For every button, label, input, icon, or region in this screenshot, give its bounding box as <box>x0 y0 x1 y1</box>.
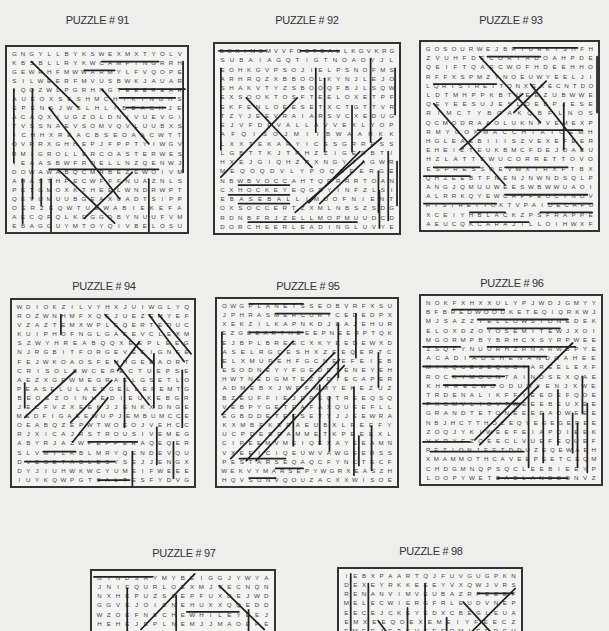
grid-cell: E <box>123 610 132 619</box>
grid-cell: U <box>141 112 150 121</box>
grid-cell: H <box>460 90 469 99</box>
grid-cell: J <box>24 429 33 438</box>
grid-cell: S <box>218 55 227 64</box>
grid-cell: S <box>286 466 294 475</box>
grid-cell: H <box>532 62 541 71</box>
grid-cell: E <box>368 608 377 617</box>
grid-cell: B <box>141 411 149 420</box>
grid-cell: H <box>37 130 46 139</box>
grid-cell: E <box>351 448 360 457</box>
grid-cell: J <box>33 357 42 366</box>
grid-cell: R <box>385 374 394 383</box>
grid-cell: T <box>321 429 330 438</box>
grid-cell: E <box>157 203 166 212</box>
grid-cell: M <box>441 118 450 127</box>
grid-cell: I <box>206 610 215 619</box>
grid-letters: GINDSAYMYBEIGGJYWYAJNIEQURLOEXMJVECNQNNX… <box>95 573 271 631</box>
grid-cell: E <box>339 356 348 365</box>
grid-cell: A <box>385 411 394 420</box>
grid-cell: Q <box>141 158 150 167</box>
grid-cell: N <box>537 473 546 482</box>
grid-cell: E <box>132 167 141 176</box>
grid-cell: I <box>158 167 167 176</box>
grid-cell: G <box>237 328 245 337</box>
grid-row: EPENSJWSLHLIBEACHJE <box>10 103 184 112</box>
grid-cell: L <box>255 301 264 310</box>
grid-cell: M <box>247 356 256 365</box>
grid-cell: I <box>197 573 206 582</box>
grid-cell: U <box>197 600 206 609</box>
grid-cell: A <box>167 76 176 85</box>
grid-cell: X <box>424 454 432 463</box>
grid-cell: A <box>123 194 132 203</box>
grid-cell: L <box>293 194 302 203</box>
grid-cell: S <box>469 164 478 173</box>
grid-cell: O <box>245 92 254 101</box>
grid-cell: W <box>80 366 89 375</box>
grid-cell: P <box>246 301 255 310</box>
grid-cell: D <box>342 580 351 589</box>
grid-cell: S <box>103 457 112 466</box>
grid-cell: G <box>50 375 59 384</box>
grid-cell: M <box>321 383 330 392</box>
grid-cell: D <box>499 307 507 316</box>
grid-cell: E <box>68 420 77 429</box>
grid-cell: W <box>368 411 377 420</box>
grid-cell: O <box>433 427 442 436</box>
grid-cell: E <box>220 328 228 337</box>
grid-cell: E <box>123 582 132 591</box>
grid-cell: B <box>441 307 449 316</box>
grid-cell: W <box>77 438 86 447</box>
grid-cell: E <box>589 399 598 408</box>
grid-cell: H <box>502 344 511 353</box>
grid-cell: R <box>404 571 413 580</box>
grid-cell: R <box>377 411 386 420</box>
grid-cell: L <box>316 74 325 83</box>
grid-cell: P <box>123 58 132 67</box>
grid-cell: F <box>546 108 555 117</box>
grid-cell: L <box>352 222 361 231</box>
grid-cell: J <box>578 72 587 81</box>
grid-cell: T <box>166 130 175 139</box>
grid-cell: E <box>351 589 360 598</box>
grid-cell: T <box>571 81 579 90</box>
grid-cell: G <box>474 608 483 617</box>
grid-cell: V <box>433 53 442 62</box>
grid-cell: W <box>577 90 586 99</box>
grid-cell: J <box>225 573 234 582</box>
grid-cell: E <box>425 617 434 626</box>
grid-cell: H <box>169 610 178 619</box>
grid-cell: Q <box>540 307 548 316</box>
grid-cell: G <box>357 46 365 55</box>
grid-cell: Z <box>541 90 550 99</box>
grid-cell: W <box>103 420 112 429</box>
grid-cell: L <box>289 222 298 231</box>
grid-cell: S <box>94 475 103 484</box>
grid-cell: F <box>71 158 80 167</box>
grid-cell: B <box>257 383 266 392</box>
grid-cell: E <box>465 200 473 209</box>
grid-cell: B <box>324 129 333 138</box>
grid-cell: R <box>56 130 65 139</box>
grid-cell: Y <box>485 335 494 344</box>
grid-cell: F <box>460 53 469 62</box>
grid-row: SILWEERFMVUSBWKJAUAR <box>10 76 184 85</box>
grid-cell: E <box>156 375 165 384</box>
grid-cell: V <box>527 136 536 145</box>
grid-cell: G <box>441 182 450 191</box>
grid-cell: H <box>88 85 97 94</box>
grid-cell: N <box>468 464 477 473</box>
grid-cell: Q <box>50 475 59 484</box>
grid-cell: G <box>256 157 265 166</box>
grid-cell: X <box>215 591 224 600</box>
grid-cell: T <box>272 411 281 420</box>
grid-cell: I <box>302 139 311 148</box>
grid-cell: X <box>360 580 369 589</box>
grid-cell: N <box>424 418 432 427</box>
grid-cell: G <box>77 475 86 484</box>
grid-cell: A <box>307 111 316 120</box>
grid-cell: G <box>264 402 273 411</box>
grid-cell: B <box>106 167 115 176</box>
grid-cell: E <box>54 76 63 85</box>
grid-cell: K <box>467 219 476 228</box>
